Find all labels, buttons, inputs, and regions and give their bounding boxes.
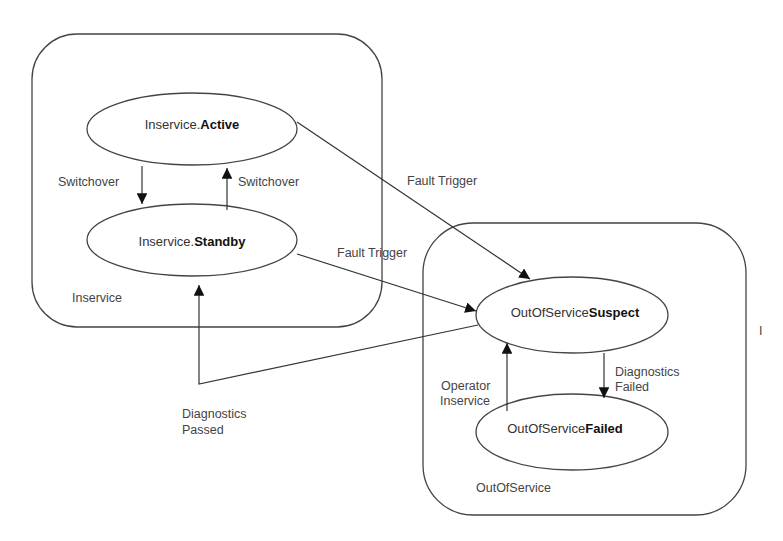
arrow-icon bbox=[297, 254, 476, 311]
state-inservice-active[interactable]: Inservice.Active bbox=[87, 93, 297, 165]
state-diagram: Inservice OutOfService Inservice.Active … bbox=[0, 0, 783, 541]
group-outofservice-box bbox=[423, 223, 746, 515]
transition-label-line2: Passed bbox=[182, 423, 224, 437]
transition-failed-to-suspect: Operator Inservice bbox=[440, 343, 507, 411]
group-inservice-label: Inservice bbox=[72, 291, 122, 305]
group-outofservice: OutOfService bbox=[423, 223, 746, 515]
transition-label-line2: Failed bbox=[615, 380, 649, 394]
transition-label: Fault Trigger bbox=[337, 246, 407, 260]
transition-active-to-suspect: Fault Trigger bbox=[297, 122, 530, 279]
transition-label: Fault Trigger bbox=[407, 174, 477, 188]
state-label: OutOfServiceSuspect bbox=[511, 305, 640, 320]
transition-label-line1: Operator bbox=[441, 379, 490, 393]
state-label: Inservice.Standby bbox=[139, 234, 247, 249]
transition-standby-to-suspect: Fault Trigger bbox=[297, 246, 476, 311]
transition-label: Switchover bbox=[238, 175, 299, 189]
transition-standby-to-active: Switchover bbox=[227, 168, 299, 210]
group-outofservice-label: OutOfService bbox=[476, 481, 551, 495]
arrow-icon bbox=[297, 122, 530, 279]
state-outofservice-suspect[interactable]: OutOfServiceSuspect bbox=[476, 277, 668, 353]
stray-mark: I bbox=[759, 324, 762, 338]
arrow-icon bbox=[199, 285, 478, 384]
transition-active-to-standby: Switchover bbox=[58, 166, 142, 204]
state-label: Inservice.Active bbox=[145, 117, 240, 132]
state-outofservice-failed[interactable]: OutOfServiceFailed bbox=[476, 394, 668, 470]
transition-suspect-to-failed: Diagnostics Failed bbox=[604, 353, 680, 398]
transition-label-line1: Diagnostics bbox=[615, 365, 680, 379]
state-inservice-standby[interactable]: Inservice.Standby bbox=[87, 204, 297, 276]
transition-label-line2: Inservice bbox=[440, 394, 490, 408]
transition-label-line1: Diagnostics bbox=[182, 407, 247, 421]
transition-label: Switchover bbox=[58, 175, 119, 189]
transition-suspect-to-standby: Diagnostics Passed bbox=[182, 285, 478, 437]
state-label: OutOfServiceFailed bbox=[507, 421, 623, 436]
